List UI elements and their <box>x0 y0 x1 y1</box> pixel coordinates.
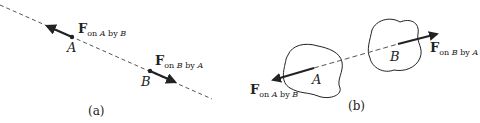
point-b-label: B <box>140 74 151 89</box>
newtons-third-law-diagram: Fon A by B A Fon B by A B (a) A B Fon A … <box>0 0 480 123</box>
caption-b: (b) <box>348 99 365 113</box>
body-a-label: A <box>311 72 321 87</box>
panel-a: Fon A by B A Fon B by A B (a) <box>0 5 212 118</box>
line-of-action <box>0 5 212 99</box>
caption-a: (a) <box>88 104 105 118</box>
force-label-on-b: Fon B by A <box>155 53 203 70</box>
point-b <box>148 69 152 73</box>
force-label-on-a: Fon A by B <box>250 82 298 99</box>
point-a-label: A <box>66 40 76 55</box>
point-a <box>70 35 74 39</box>
panel-b: A B Fon A by B Fon B by A (b) <box>250 19 478 113</box>
force-label-on-a: Fon A by B <box>78 21 126 38</box>
force-arrow-on-a <box>273 68 314 80</box>
line-of-action <box>314 44 398 68</box>
force-arrow-on-a <box>47 26 72 37</box>
body-b-label: B <box>389 49 400 64</box>
force-arrow-on-b <box>150 71 175 82</box>
force-label-on-b: Fon B by A <box>430 40 478 57</box>
